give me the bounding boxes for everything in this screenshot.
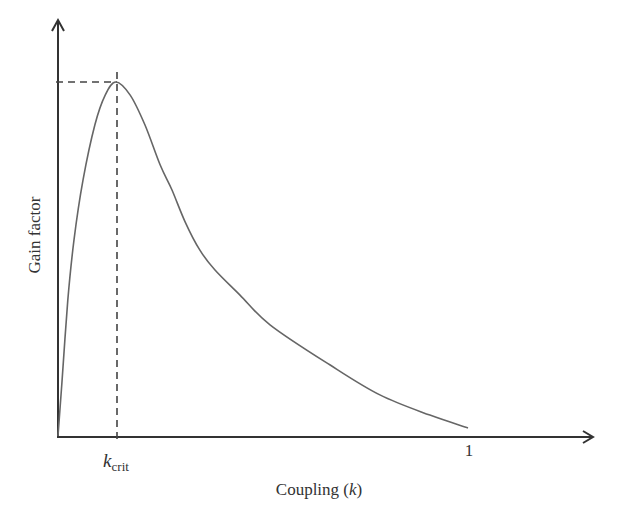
y-axis-label: Gain factor [25,197,45,274]
x-axis-label: Coupling (k) [276,480,362,500]
x-tick-one: 1 [465,441,474,461]
x-axis-label-suffix: ) [357,480,363,499]
chart-canvas [0,0,618,526]
x-axis-label-prefix: Coupling ( [276,480,349,499]
x-axis-label-var: k [349,480,357,499]
gain-curve [58,82,468,436]
kcrit-subscript: crit [112,459,129,474]
kcrit-tick-label: kcrit [103,450,129,475]
